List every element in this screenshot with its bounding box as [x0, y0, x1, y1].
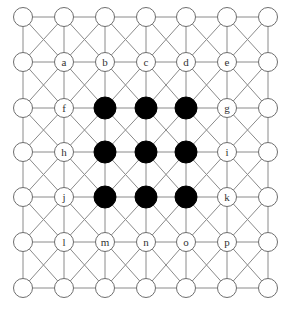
node-label: j — [61, 191, 65, 203]
empty-node — [259, 233, 278, 252]
node-label: d — [183, 56, 189, 68]
empty-node — [137, 8, 156, 27]
empty-node — [259, 279, 278, 298]
node-label: m — [101, 236, 110, 248]
node-label: h — [61, 146, 67, 158]
node-label: g — [224, 102, 230, 114]
black-node — [94, 186, 116, 208]
node-label: p — [224, 236, 230, 248]
node-label: o — [183, 236, 189, 248]
empty-node — [14, 8, 33, 27]
empty-node — [218, 279, 237, 298]
empty-node — [14, 188, 33, 207]
black-node — [94, 97, 116, 119]
empty-node — [259, 53, 278, 72]
empty-node — [96, 279, 115, 298]
black-node — [175, 141, 197, 163]
empty-node — [177, 279, 196, 298]
black-node — [135, 97, 157, 119]
node-label: n — [143, 236, 149, 248]
empty-node — [14, 233, 33, 252]
black-node — [175, 186, 197, 208]
empty-node — [96, 8, 115, 27]
empty-node — [259, 99, 278, 118]
empty-node — [137, 279, 156, 298]
empty-node — [177, 8, 196, 27]
node-label: e — [225, 56, 230, 68]
node-label: l — [62, 236, 65, 248]
empty-node — [14, 143, 33, 162]
black-node — [94, 141, 116, 163]
black-node — [175, 97, 197, 119]
empty-node — [259, 8, 278, 27]
empty-node — [55, 279, 74, 298]
node-label: k — [224, 191, 230, 203]
node-label: i — [225, 146, 228, 158]
empty-node — [14, 279, 33, 298]
empty-node — [259, 188, 278, 207]
node-label: a — [62, 56, 67, 68]
node-label: b — [102, 56, 108, 68]
node-label: c — [144, 56, 149, 68]
black-node — [135, 141, 157, 163]
empty-node — [14, 53, 33, 72]
node-label: f — [62, 102, 66, 114]
empty-node — [14, 99, 33, 118]
black-node — [135, 186, 157, 208]
empty-node — [218, 8, 237, 27]
grid-graph-diagram: abcdefghijklmnop — [0, 0, 288, 312]
empty-node — [55, 8, 74, 27]
empty-node — [259, 143, 278, 162]
